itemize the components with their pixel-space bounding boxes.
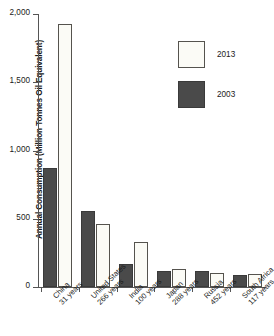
- legend-swatch: [178, 41, 205, 68]
- bar-group: [77, 15, 115, 287]
- y-tick-label: 500: [16, 213, 30, 222]
- bar-group: [115, 15, 153, 287]
- bar-chart: Annual Consumption (Million Tonnes Oil E…: [0, 0, 274, 336]
- y-tick-label: 1,000: [10, 145, 31, 154]
- x-axis-labels: China31 yearsUnited States266 yearsIndia…: [38, 294, 266, 336]
- chart-legend: 20132003: [178, 41, 270, 121]
- bar: [43, 168, 57, 287]
- legend-label: 2003: [217, 90, 235, 99]
- bar-group: [39, 15, 77, 287]
- legend-label: 2013: [217, 50, 235, 59]
- bar: [58, 24, 72, 287]
- y-tick-label: 0: [25, 281, 30, 290]
- y-tick: 0: [33, 287, 39, 288]
- legend-swatch: [178, 81, 205, 108]
- y-tick-label: 1,500: [10, 76, 31, 85]
- x-tick: [41, 287, 42, 292]
- legend-item: 2013: [178, 41, 270, 68]
- bar: [81, 211, 95, 287]
- y-tick-label: 2,000: [10, 8, 31, 17]
- legend-item: 2003: [178, 81, 270, 108]
